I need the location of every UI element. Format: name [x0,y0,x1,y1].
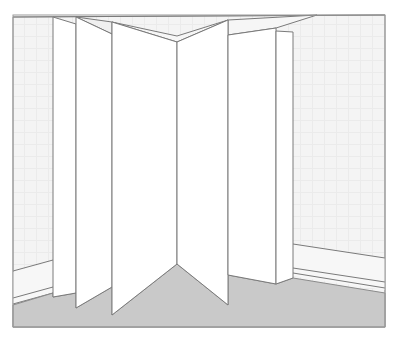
folding-screen [53,15,317,315]
folding-screen-illustration [0,0,397,340]
screen-panel-1 [53,17,76,297]
screen-panel-6 [276,31,293,284]
screen-panel-4 [177,20,228,305]
screen-panel-2 [76,17,112,308]
illustration-canvas [0,0,397,340]
screen-panel-3 [112,22,177,315]
screen-panel-5 [228,28,276,284]
